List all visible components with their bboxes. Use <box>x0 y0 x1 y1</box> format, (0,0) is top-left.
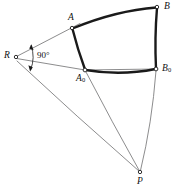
geometry-diagram: R A B A0 B0 P 90° <box>0 0 179 189</box>
vertex-dot-P <box>138 170 141 173</box>
point-label-P: P <box>137 177 143 187</box>
point-label-B0-subscript: 0 <box>168 66 171 73</box>
seg-A0-P <box>86 72 140 171</box>
edge-B-B0 <box>155 8 157 69</box>
thick-quadrilateral-group <box>73 8 158 73</box>
thin-lines-group <box>17 24 157 172</box>
point-label-A: A <box>68 13 74 23</box>
seg-B0-P <box>141 71 157 171</box>
arc-A-B <box>73 8 157 29</box>
vertex-dot-A <box>70 26 73 29</box>
angle-label-90: 90° <box>37 51 50 60</box>
edge-A-A0 <box>73 29 86 70</box>
point-label-A0-subscript: 0 <box>82 76 85 83</box>
vertex-dots-group <box>14 5 158 173</box>
vertex-dot-B0 <box>154 67 158 71</box>
right-angle-marker <box>28 44 33 71</box>
point-label-R: R <box>4 51 10 61</box>
diagram-canvas <box>0 0 179 189</box>
vertex-dot-B <box>155 5 158 8</box>
point-label-A0: A0 <box>76 74 85 84</box>
point-label-B: B <box>164 2 170 12</box>
vertex-dot-A0 <box>83 68 87 72</box>
point-label-B0: B0 <box>162 64 171 74</box>
vertex-dot-R <box>14 55 17 58</box>
